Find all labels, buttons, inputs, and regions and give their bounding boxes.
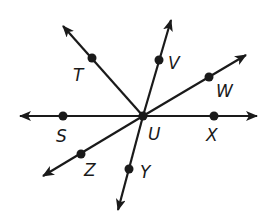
label-v: V <box>168 53 181 73</box>
point-t <box>88 54 97 63</box>
point-u <box>139 112 148 121</box>
point-v <box>155 56 164 65</box>
point-y <box>125 165 134 174</box>
label-u: U <box>148 124 161 144</box>
label-x: X <box>205 125 218 145</box>
label-w: W <box>216 81 234 101</box>
label-s: S <box>56 126 67 146</box>
point-x <box>210 112 219 121</box>
point-s <box>59 112 68 121</box>
label-y: Y <box>140 162 152 182</box>
label-t: T <box>73 65 85 85</box>
geometry-diagram: T V W S U X Z Y <box>0 0 265 219</box>
point-z <box>77 150 86 159</box>
point-w <box>205 73 214 82</box>
label-z: Z <box>83 160 96 180</box>
